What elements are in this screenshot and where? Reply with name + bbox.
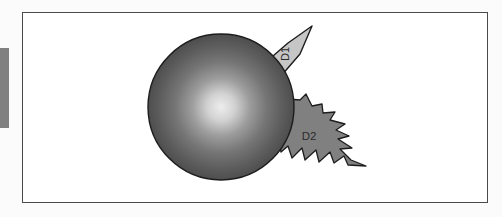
arrow-callout-label: D1 [279, 47, 291, 61]
drawing-canvas[interactable]: D1 D2 [0, 0, 502, 217]
jagged-burst-label: D2 [302, 130, 317, 142]
gradient-sphere-body[interactable] [148, 34, 294, 180]
gradient-sphere[interactable] [148, 34, 294, 180]
screenshot-stage: D1 D2 [0, 0, 502, 217]
